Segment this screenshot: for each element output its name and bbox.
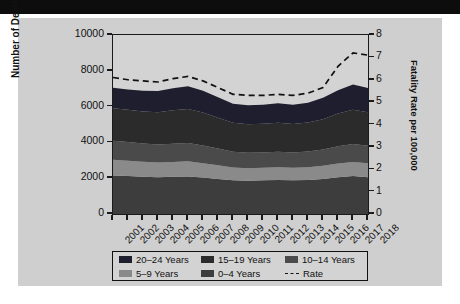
legend-row-bottom: 5–9 Years0–4 YearsRate bbox=[113, 267, 367, 280]
legend-item[interactable]: Rate bbox=[285, 267, 323, 280]
x-tick-mark bbox=[186, 215, 188, 220]
y2-tick-label: 3 bbox=[376, 139, 400, 151]
x-tick-mark bbox=[111, 215, 113, 220]
rate-line bbox=[113, 53, 368, 96]
top-banner bbox=[0, 0, 460, 14]
x-tick-mark bbox=[336, 215, 338, 220]
y-tick-label: 6000 bbox=[46, 99, 104, 111]
y2-tick-label: 7 bbox=[376, 49, 400, 61]
legend-item[interactable]: 20–24 Years bbox=[119, 253, 189, 266]
x-tick-mark bbox=[201, 215, 203, 220]
chart-legend: 20–24 Years15–19 Years10–14 Years 5–9 Ye… bbox=[112, 251, 368, 281]
y2-tick-mark bbox=[369, 56, 374, 58]
x-tick-mark bbox=[216, 215, 218, 220]
chart-page: Number of Deaths Fatality Rate per 100,0… bbox=[0, 0, 460, 304]
legend-swatch-icon bbox=[119, 270, 132, 277]
legend-swatch-icon bbox=[201, 270, 214, 277]
legend-swatch-icon bbox=[119, 256, 132, 263]
x-tick-mark bbox=[126, 215, 128, 220]
legend-item[interactable]: 0–4 Years bbox=[201, 267, 260, 280]
y2-tick-mark bbox=[369, 190, 374, 192]
y2-tick-mark bbox=[369, 123, 374, 125]
y2-tick-mark bbox=[369, 212, 374, 214]
y2-tick-label: 1 bbox=[376, 184, 400, 196]
x-tick-mark bbox=[231, 215, 233, 220]
y2-tick-label: 8 bbox=[376, 27, 400, 39]
y2-tick-label: 0 bbox=[376, 206, 400, 218]
x-tick-mark bbox=[246, 215, 248, 220]
x-tick-mark bbox=[291, 215, 293, 220]
y-axis-label-left: Number of Deaths bbox=[10, 0, 21, 78]
plot-area bbox=[112, 34, 369, 215]
y-tick-label: 10000 bbox=[46, 27, 104, 39]
x-tick-mark bbox=[261, 215, 263, 220]
legend-label: 20–24 Years bbox=[136, 254, 189, 265]
y-tick-label: 0 bbox=[46, 206, 104, 218]
legend-label: 15–19 Years bbox=[218, 254, 271, 265]
legend-swatch-icon bbox=[285, 256, 298, 263]
x-tick-mark bbox=[321, 215, 323, 220]
y2-tick-mark bbox=[369, 145, 374, 147]
x-tick-mark bbox=[171, 215, 173, 220]
x-tick-mark bbox=[306, 215, 308, 220]
figure-panel: Number of Deaths Fatality Rate per 100,0… bbox=[18, 18, 442, 286]
legend-label: 10–14 Years bbox=[302, 254, 355, 265]
x-tick-mark bbox=[366, 215, 368, 220]
legend-item[interactable]: 10–14 Years bbox=[285, 253, 355, 266]
x-tick-mark bbox=[156, 215, 158, 220]
y2-tick-label: 2 bbox=[376, 161, 400, 173]
y-axis-label-right: Fatality Rate per 100,000 bbox=[409, 60, 420, 171]
x-tick-mark bbox=[276, 215, 278, 220]
legend-label: Rate bbox=[303, 268, 323, 279]
y2-tick-label: 5 bbox=[376, 94, 400, 106]
x-tick-mark bbox=[141, 215, 143, 220]
stacked-area-svg bbox=[113, 35, 368, 214]
figure-inner: Number of Deaths Fatality Rate per 100,0… bbox=[18, 18, 442, 286]
y2-tick-mark bbox=[369, 100, 374, 102]
y2-tick-mark bbox=[369, 168, 374, 170]
y2-tick-mark bbox=[369, 33, 374, 35]
legend-item[interactable]: 5–9 Years bbox=[119, 267, 178, 280]
legend-label: 0–4 Years bbox=[218, 268, 260, 279]
area-band-0-4-years bbox=[113, 176, 368, 214]
y2-tick-label: 4 bbox=[376, 117, 400, 129]
legend-dash-icon bbox=[285, 273, 299, 274]
legend-swatch-icon bbox=[201, 256, 214, 263]
y-tick-label: 2000 bbox=[46, 170, 104, 182]
legend-row-top: 20–24 Years15–19 Years10–14 Years bbox=[113, 253, 367, 266]
y-tick-label: 8000 bbox=[46, 63, 104, 75]
y2-tick-label: 6 bbox=[376, 72, 400, 84]
legend-label: 5–9 Years bbox=[136, 268, 178, 279]
x-tick-mark bbox=[351, 215, 353, 220]
y2-tick-mark bbox=[369, 78, 374, 80]
legend-item[interactable]: 15–19 Years bbox=[201, 253, 271, 266]
y-tick-label: 4000 bbox=[46, 134, 104, 146]
